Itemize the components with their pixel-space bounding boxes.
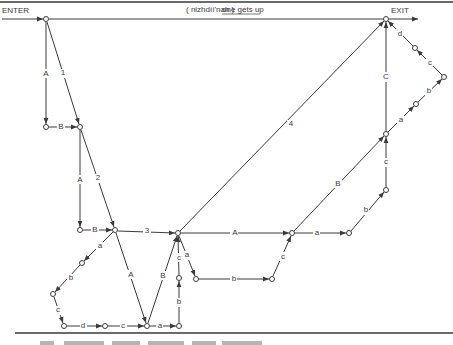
edge-label: d <box>398 29 402 38</box>
edge-label: B <box>335 179 340 188</box>
state-node <box>78 125 83 130</box>
edge-label: b <box>232 274 237 283</box>
state-node <box>384 188 389 193</box>
edge-label: c <box>177 253 181 262</box>
state-node <box>51 292 56 297</box>
edge-label: C <box>383 72 389 81</box>
edge-label: c <box>428 58 432 67</box>
state-node <box>145 324 150 329</box>
edge-label: A <box>128 270 134 279</box>
edge-hub-exit <box>180 21 384 231</box>
edge-label: a <box>98 241 103 250</box>
exit-node <box>384 17 389 22</box>
edge-label: B <box>92 225 97 234</box>
state-node <box>113 228 118 233</box>
edge-label: c <box>56 305 60 314</box>
edge-labels: A B 1 A B 2 3 4 A B C a b c a b c d a b … <box>42 29 433 331</box>
state-transition-diagram: ( nizhdíí'nah ) one gets up ENTER EXIT <box>0 0 453 345</box>
state-node <box>413 46 418 51</box>
hub-node <box>176 231 181 236</box>
edge-label: a <box>158 321 163 330</box>
edges <box>46 21 442 326</box>
state-node <box>44 125 49 130</box>
state-node <box>347 231 352 236</box>
edge-label: c <box>281 252 285 261</box>
state-node <box>177 276 182 281</box>
edge-label: A <box>232 228 238 237</box>
state-node <box>414 102 419 107</box>
state-node <box>78 228 83 233</box>
state-node <box>290 231 295 236</box>
edge-label: B <box>58 122 63 131</box>
state-node <box>177 324 182 329</box>
state-node <box>194 277 199 282</box>
state-node <box>80 261 85 266</box>
state-node <box>103 324 108 329</box>
state-node <box>384 132 389 137</box>
state-node <box>270 277 275 282</box>
edge-label: a <box>185 250 190 259</box>
edge-label: 4 <box>289 119 294 128</box>
edge-label: 1 <box>61 68 66 77</box>
state-node <box>442 75 447 80</box>
edge-label: b <box>364 205 369 214</box>
edge-label: b <box>177 297 182 306</box>
edge-label: A <box>77 175 83 184</box>
cut-off-figure-caption <box>40 341 262 345</box>
enter-node <box>44 17 49 22</box>
edge-label: a <box>315 228 320 237</box>
edge-label: B <box>160 271 165 280</box>
edge-label: d <box>81 321 85 330</box>
edge-label: c <box>121 321 125 330</box>
edge-label: 2 <box>96 173 101 182</box>
edge-label: c <box>384 157 388 166</box>
edge-label: a <box>399 115 404 124</box>
edge-label: A <box>43 69 49 78</box>
exit-label: EXIT <box>391 6 409 15</box>
edge-label: b <box>69 273 74 282</box>
edge-label: b <box>427 86 432 95</box>
state-node <box>62 324 67 329</box>
enter-label: ENTER <box>2 6 29 15</box>
translation-text: one gets up <box>222 5 264 14</box>
edge-label: 3 <box>145 226 150 235</box>
